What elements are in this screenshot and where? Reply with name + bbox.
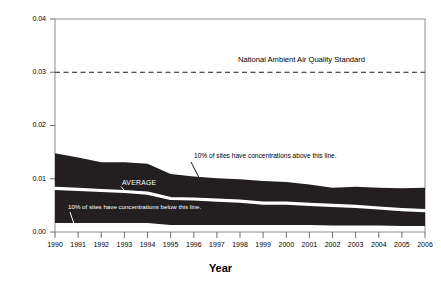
y-tick-label-0: 0.04 xyxy=(14,15,46,23)
naaqs-annotation: National Ambient Air Quality Standard xyxy=(238,55,365,64)
chart-figure: SO2 Ambient Concentration, ppm xyxy=(0,0,441,283)
y-tick-label-2: 0.02 xyxy=(14,121,46,129)
upper-percentile-annotation: 10% of sites have concentrations above t… xyxy=(194,152,337,160)
x-tick-label-2006: 2006 xyxy=(410,241,440,249)
x-axis-title: Year xyxy=(0,262,441,274)
y-tick-label-3: 0.01 xyxy=(14,175,46,183)
average-annotation: AVERAGE xyxy=(122,179,156,187)
lower-percentile-annotation: 10% of sites have concentrations below t… xyxy=(68,203,201,211)
x-axis-ticks xyxy=(55,232,425,238)
y-tick-label-4: 0.00 xyxy=(14,228,46,236)
y-axis-ticks xyxy=(50,19,55,232)
y-tick-label-1: 0.03 xyxy=(14,68,46,76)
